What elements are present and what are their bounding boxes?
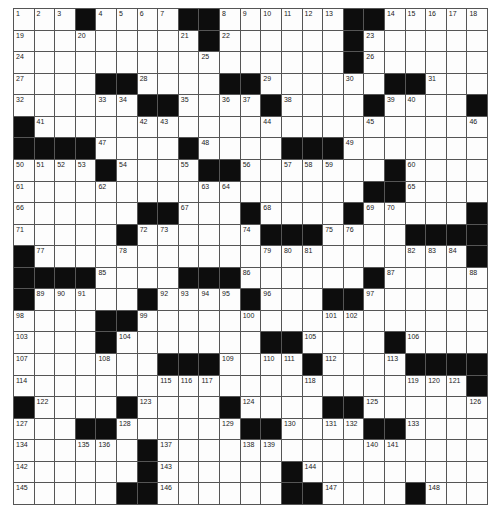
grid-cell[interactable] xyxy=(55,332,75,353)
grid-cell[interactable]: 76 xyxy=(344,225,364,246)
grid-cell[interactable] xyxy=(117,138,137,159)
grid-cell[interactable]: 103 xyxy=(14,332,34,353)
grid-cell[interactable]: 142 xyxy=(14,462,34,483)
grid-cell[interactable]: 39 xyxy=(385,95,405,116)
grid-cell[interactable]: 148 xyxy=(426,483,446,504)
grid-cell[interactable] xyxy=(76,182,96,203)
grid-cell[interactable]: 123 xyxy=(138,397,158,418)
grid-cell[interactable]: 143 xyxy=(158,462,178,483)
grid-cell[interactable]: 77 xyxy=(35,246,55,267)
grid-cell[interactable] xyxy=(385,246,405,267)
grid-cell[interactable] xyxy=(96,289,116,310)
grid-cell[interactable] xyxy=(406,440,426,461)
grid-cell[interactable]: 99 xyxy=(138,311,158,332)
grid-cell[interactable] xyxy=(344,182,364,203)
grid-cell[interactable]: 112 xyxy=(323,354,343,375)
grid-cell[interactable]: 48 xyxy=(199,138,219,159)
grid-cell[interactable] xyxy=(467,419,487,440)
grid-cell[interactable] xyxy=(447,95,467,116)
grid-cell[interactable]: 26 xyxy=(364,52,384,73)
grid-cell[interactable]: 82 xyxy=(406,246,426,267)
grid-cell[interactable] xyxy=(282,117,302,138)
grid-cell[interactable]: 83 xyxy=(426,246,446,267)
grid-cell[interactable] xyxy=(158,246,178,267)
grid-cell[interactable] xyxy=(199,483,219,504)
grid-cell[interactable] xyxy=(35,311,55,332)
grid-cell[interactable] xyxy=(426,462,446,483)
grid-cell[interactable]: 121 xyxy=(447,376,467,397)
grid-cell[interactable] xyxy=(179,462,199,483)
grid-cell[interactable] xyxy=(385,52,405,73)
grid-cell[interactable]: 135 xyxy=(76,440,96,461)
grid-cell[interactable]: 102 xyxy=(344,311,364,332)
grid-cell[interactable] xyxy=(447,311,467,332)
grid-cell[interactable]: 40 xyxy=(406,95,426,116)
grid-cell[interactable] xyxy=(426,440,446,461)
grid-cell[interactable] xyxy=(406,311,426,332)
grid-cell[interactable] xyxy=(158,332,178,353)
grid-cell[interactable]: 128 xyxy=(117,419,137,440)
grid-cell[interactable]: 28 xyxy=(138,74,158,95)
grid-cell[interactable]: 110 xyxy=(261,354,281,375)
grid-cell[interactable] xyxy=(55,483,75,504)
grid-cell[interactable] xyxy=(426,289,446,310)
grid-cell[interactable]: 129 xyxy=(220,419,240,440)
grid-cell[interactable] xyxy=(220,52,240,73)
grid-cell[interactable] xyxy=(117,440,137,461)
grid-cell[interactable] xyxy=(117,117,137,138)
grid-cell[interactable] xyxy=(179,332,199,353)
grid-cell[interactable]: 89 xyxy=(35,289,55,310)
grid-cell[interactable] xyxy=(261,52,281,73)
grid-cell[interactable] xyxy=(447,268,467,289)
grid-cell[interactable] xyxy=(426,311,446,332)
grid-cell[interactable] xyxy=(426,268,446,289)
grid-cell[interactable] xyxy=(344,354,364,375)
grid-cell[interactable]: 85 xyxy=(96,268,116,289)
grid-cell[interactable] xyxy=(55,74,75,95)
grid-cell[interactable] xyxy=(76,397,96,418)
grid-cell[interactable]: 15 xyxy=(406,9,426,30)
grid-cell[interactable] xyxy=(199,440,219,461)
grid-cell[interactable] xyxy=(199,246,219,267)
grid-cell[interactable] xyxy=(385,138,405,159)
grid-cell[interactable] xyxy=(261,182,281,203)
grid-cell[interactable] xyxy=(35,203,55,224)
grid-cell[interactable]: 130 xyxy=(282,419,302,440)
grid-cell[interactable] xyxy=(117,268,137,289)
grid-cell[interactable]: 27 xyxy=(14,74,34,95)
grid-cell[interactable] xyxy=(261,160,281,181)
grid-cell[interactable] xyxy=(35,332,55,353)
grid-cell[interactable]: 96 xyxy=(261,289,281,310)
grid-cell[interactable]: 86 xyxy=(241,268,261,289)
grid-cell[interactable]: 115 xyxy=(158,376,178,397)
grid-cell[interactable] xyxy=(406,138,426,159)
grid-cell[interactable] xyxy=(117,289,137,310)
grid-cell[interactable]: 81 xyxy=(303,246,323,267)
grid-cell[interactable]: 52 xyxy=(55,160,75,181)
grid-cell[interactable]: 100 xyxy=(241,311,261,332)
grid-cell[interactable]: 21 xyxy=(179,31,199,52)
grid-cell[interactable] xyxy=(282,397,302,418)
grid-cell[interactable] xyxy=(447,74,467,95)
grid-cell[interactable] xyxy=(323,440,343,461)
grid-cell[interactable]: 29 xyxy=(261,74,281,95)
grid-cell[interactable]: 56 xyxy=(241,160,261,181)
grid-cell[interactable] xyxy=(406,397,426,418)
grid-cell[interactable] xyxy=(323,268,343,289)
grid-cell[interactable] xyxy=(303,203,323,224)
grid-cell[interactable]: 146 xyxy=(158,483,178,504)
grid-cell[interactable]: 78 xyxy=(117,246,137,267)
grid-cell[interactable] xyxy=(199,225,219,246)
grid-cell[interactable] xyxy=(447,160,467,181)
grid-cell[interactable] xyxy=(467,462,487,483)
grid-cell[interactable] xyxy=(138,419,158,440)
grid-cell[interactable] xyxy=(199,117,219,138)
grid-cell[interactable] xyxy=(35,376,55,397)
grid-cell[interactable] xyxy=(364,354,384,375)
grid-cell[interactable] xyxy=(467,311,487,332)
grid-cell[interactable]: 120 xyxy=(426,376,446,397)
grid-cell[interactable]: 59 xyxy=(323,160,343,181)
grid-cell[interactable] xyxy=(364,376,384,397)
grid-cell[interactable]: 38 xyxy=(282,95,302,116)
grid-cell[interactable]: 124 xyxy=(241,397,261,418)
